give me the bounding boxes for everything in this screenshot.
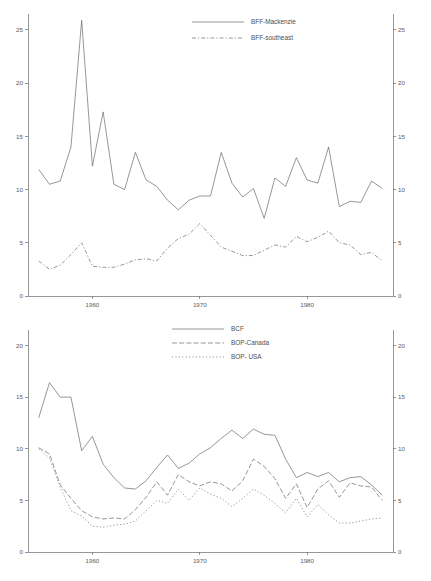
- svg-text:0: 0: [20, 548, 24, 555]
- svg-text:25: 25: [398, 26, 405, 33]
- svg-text:5: 5: [398, 239, 402, 246]
- legend-label: BFF-Mackenzie: [251, 18, 296, 25]
- svg-text:1960: 1960: [86, 557, 100, 564]
- series-line-bff-southeast: [39, 224, 383, 270]
- series-line-bcf: [39, 383, 383, 496]
- svg-text:10: 10: [398, 445, 405, 452]
- series-line-bff-mackenzie: [39, 20, 383, 218]
- svg-text:0: 0: [398, 548, 402, 555]
- svg-text:0: 0: [398, 292, 402, 299]
- top-chart-svg: 00551010151520202525196019701980BFF-Mack…: [0, 0, 431, 308]
- svg-text:1980: 1980: [300, 301, 314, 308]
- svg-text:25: 25: [16, 26, 23, 33]
- svg-text:15: 15: [16, 393, 23, 400]
- svg-text:0: 0: [20, 292, 24, 299]
- svg-text:5: 5: [20, 239, 24, 246]
- svg-text:10: 10: [16, 445, 23, 452]
- svg-text:15: 15: [16, 133, 23, 140]
- top-chart-panel: 00551010151520202525196019701980BFF-Mack…: [0, 0, 431, 308]
- svg-text:10: 10: [16, 186, 23, 193]
- svg-text:5: 5: [398, 497, 402, 504]
- svg-text:5: 5: [20, 497, 24, 504]
- svg-text:20: 20: [16, 79, 23, 86]
- svg-text:20: 20: [398, 79, 405, 86]
- svg-text:20: 20: [398, 342, 405, 349]
- svg-text:1970: 1970: [193, 557, 207, 564]
- legend-label: BFF-southeast: [251, 34, 293, 41]
- legend-label: BOP-Canada: [231, 339, 269, 346]
- chart-page: 00551010151520202525196019701980BFF-Mack…: [0, 0, 431, 581]
- svg-text:1980: 1980: [300, 557, 314, 564]
- svg-text:1970: 1970: [193, 301, 207, 308]
- svg-text:1960: 1960: [86, 301, 100, 308]
- series-line-bop-canada: [39, 448, 383, 519]
- svg-text:15: 15: [398, 133, 405, 140]
- bottom-chart-panel: 0055101015152020196019701980BCFBOP-Canad…: [0, 308, 431, 581]
- bottom-chart-svg: 0055101015152020196019701980BCFBOP-Canad…: [0, 308, 431, 581]
- legend-label: BOP- USA: [231, 353, 262, 360]
- svg-text:20: 20: [16, 342, 23, 349]
- svg-text:15: 15: [398, 393, 405, 400]
- legend-label: BCF: [231, 325, 244, 332]
- svg-text:10: 10: [398, 186, 405, 193]
